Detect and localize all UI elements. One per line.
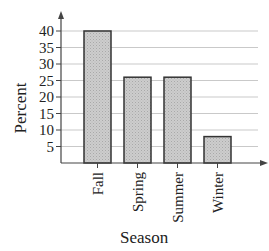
bar-fall	[84, 31, 111, 163]
y-tick-label: 30	[39, 56, 54, 72]
y-tick-label: 25	[39, 73, 54, 89]
y-axis-label: Percent	[11, 73, 31, 143]
y-tick-label: 15	[39, 106, 54, 122]
x-tick-label: Winter	[210, 172, 226, 213]
bar-spring	[124, 77, 151, 163]
y-tick-label: 20	[39, 89, 54, 105]
x-tick-label: Fall	[90, 172, 106, 195]
y-tick-label: 40	[39, 23, 54, 39]
x-tick-label: Spring	[130, 172, 146, 213]
x-axis-label: Season	[120, 228, 168, 248]
y-tick-label: 5	[47, 139, 55, 155]
y-tick-label: 10	[39, 122, 54, 138]
bar-summer	[164, 77, 191, 163]
bar-winter	[204, 137, 231, 163]
x-axis-arrow-icon	[260, 160, 268, 166]
bar-chart: 510152025303540 FallSpringSummerWinter	[0, 0, 269, 251]
y-tick-label: 35	[39, 40, 54, 56]
y-axis-ticks: 510152025303540	[39, 23, 61, 155]
x-tick-label: Summer	[170, 172, 186, 223]
x-axis-ticks: FallSpringSummerWinter	[90, 163, 226, 223]
y-axis-arrow-icon	[58, 11, 64, 19]
